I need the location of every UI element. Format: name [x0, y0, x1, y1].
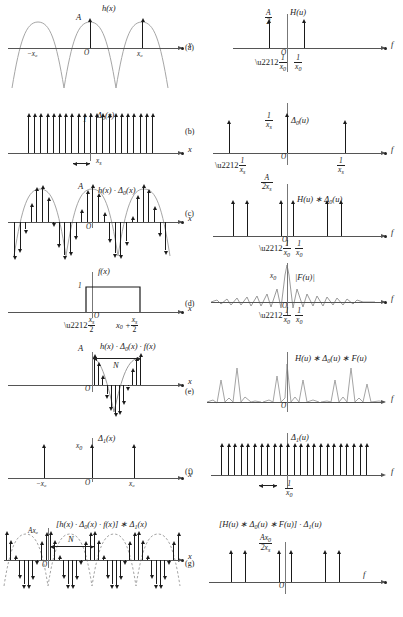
- impulse: [53, 222, 54, 223]
- amplitude-label-b: 1: [83, 117, 87, 124]
- impulse: [165, 222, 166, 250]
- impulse: [327, 447, 328, 475]
- panel-a-frequency: A2 H(u) f O \u22121x0 1x0: [203, 0, 403, 95]
- f-axis-c: [213, 236, 383, 237]
- f-axis-tip-c: [384, 235, 387, 238]
- impulse: [81, 213, 82, 222]
- x-axis-g: [4, 560, 180, 561]
- impulse: [34, 117, 35, 153]
- f-axis-label-g: f: [363, 570, 365, 579]
- f-vaxis-g: [285, 542, 286, 594]
- impulse: [128, 385, 129, 386]
- impulse: [154, 210, 155, 222]
- impulse-a-posf0: [304, 23, 305, 48]
- impulse-f-0: [92, 448, 93, 478]
- x-axis-tip-a: [181, 47, 184, 50]
- amplitude-label-a: A: [76, 13, 81, 22]
- impulse: [70, 222, 71, 252]
- panel-d-frequency: x0 |F(u)| f O \u22121x0 1x0: [203, 255, 403, 340]
- origin-label-e: O: [85, 386, 90, 393]
- f-axis-label-b: f: [391, 145, 393, 154]
- tick-b-freq-pos: 1xs: [337, 157, 345, 174]
- f-axis-g: [209, 582, 383, 583]
- spacing-label-b: xs: [96, 158, 102, 166]
- origin-label-c: O: [86, 224, 91, 231]
- f-axis-label-f: f: [391, 467, 393, 476]
- impulse-g-p3: [339, 554, 340, 582]
- panel-b-frequency: 1xs Δ0(u) f O \u22121xs 1xs: [203, 95, 403, 178]
- impulse: [103, 559, 104, 560]
- impulse: [138, 535, 139, 560]
- impulse: [134, 536, 135, 560]
- impulse: [267, 447, 268, 475]
- impulse: [221, 447, 222, 475]
- impulse: [32, 560, 33, 576]
- impulse: [14, 222, 15, 256]
- impulse: [120, 222, 121, 255]
- signal-label-c-freq: H(u) ∗ Δ0(u): [297, 195, 342, 205]
- impulse-g-p2: [325, 554, 326, 582]
- impulse-c-p3: [341, 204, 342, 236]
- impulse: [127, 117, 128, 153]
- f-axis-e: [207, 402, 383, 403]
- x-axis-tip-b: [181, 152, 184, 155]
- impulse-c-p2: [327, 204, 328, 236]
- f-axis-tip-b: [384, 152, 387, 155]
- f-axis-tip-d: [384, 301, 387, 304]
- impulse: [116, 560, 117, 585]
- amplitude-label-b-freq: 1xs: [265, 112, 273, 129]
- impulse: [87, 194, 88, 222]
- panel-e-spatial: A h(x) · Δ0(x) · f(x) x O N: [0, 340, 200, 430]
- impulse: [140, 357, 141, 385]
- x-axis-label-e: x: [188, 377, 192, 386]
- impulse: [307, 447, 308, 475]
- panel-letter-e: (e): [185, 388, 194, 396]
- signal-label-a-freq: H(u): [290, 8, 306, 17]
- impulse: [132, 372, 133, 385]
- impulse-g-n2: [231, 554, 232, 582]
- origin-label-f: O: [85, 480, 90, 487]
- impulse-c-p1: [293, 204, 294, 236]
- tick-f-pos-x0: x₀: [129, 481, 135, 488]
- impulse-c-n1: [281, 204, 282, 236]
- impulse: [119, 385, 120, 411]
- impulse: [228, 447, 229, 475]
- amplitude-label-d: 1: [78, 283, 82, 290]
- panel-d-spatial: 1 f(x) x O \u2212xs2 x0 +xs2: [0, 260, 200, 340]
- f-axis-tip-a: [384, 47, 387, 50]
- impulse: [36, 191, 37, 222]
- impulse-f-neg-x0: [44, 448, 45, 478]
- impulse: [254, 447, 255, 475]
- impulse: [137, 199, 138, 222]
- impulse: [94, 358, 95, 385]
- impulse: [96, 117, 97, 153]
- impulse: [20, 222, 21, 249]
- impulse: [109, 117, 110, 153]
- panel-g-frequency: Ax02xs [H(u) ∗ Δ0(u) ∗ F(u)] · Δ1(u) f O: [203, 520, 403, 610]
- impulse: [123, 385, 124, 401]
- spacing-bar-f: [259, 485, 277, 486]
- impulse-g-n1: [279, 554, 280, 582]
- impulse: [121, 117, 122, 153]
- amplitude-label-e: A: [78, 344, 83, 353]
- impulse: [85, 545, 86, 560]
- tick-d-freq-neg: \u22121x0: [259, 307, 291, 324]
- impulse: [24, 560, 25, 584]
- x-axis-b: [8, 153, 180, 154]
- f-axis-arrow-e: [381, 400, 386, 404]
- impulse-b-neg: [229, 124, 230, 153]
- sample-count-bar-g: [50, 546, 94, 547]
- impulse: [136, 361, 137, 385]
- signal-label-d: f(x): [98, 267, 110, 276]
- impulse: [71, 117, 72, 153]
- figure-sampling-dft-chain: A h(x) x O −x₀ x₀ A2 H(u) f O \u22121x0 …: [0, 0, 403, 617]
- tick-a-pos-x0: x₀: [137, 51, 143, 58]
- impulse-a-0: [90, 22, 91, 48]
- impulse: [98, 544, 99, 560]
- f-axis-label-c: f: [391, 228, 393, 237]
- impulse: [76, 222, 77, 236]
- impulse: [120, 560, 121, 576]
- impulse: [164, 560, 165, 576]
- origin-label-g: O: [42, 562, 47, 569]
- spacing-bar-b: [73, 163, 90, 164]
